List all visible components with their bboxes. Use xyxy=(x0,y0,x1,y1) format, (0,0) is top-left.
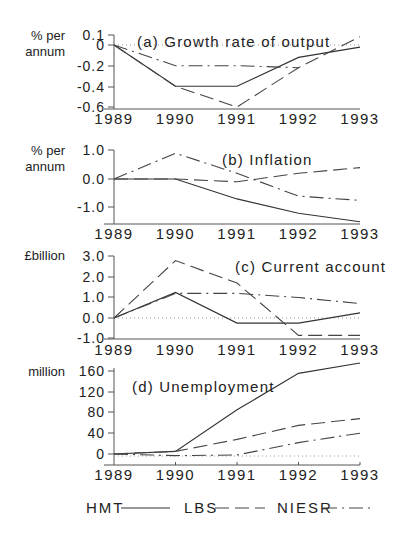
x-tick-label: 1990 xyxy=(156,225,195,242)
y-tick-label: 40 xyxy=(87,425,105,441)
y-tick-label: 160 xyxy=(79,363,105,379)
y-unit-label: % per xyxy=(31,143,66,158)
series-line-niesr xyxy=(114,293,360,318)
y-tick-label: 0.0 xyxy=(83,310,105,326)
x-tick-label: 1989 xyxy=(94,225,133,242)
y-tick-label: -1.0 xyxy=(77,199,105,215)
panel-title: (b) Inflation xyxy=(222,151,313,168)
series-line-lbs xyxy=(114,419,360,454)
x-tick-label: 1992 xyxy=(279,341,318,358)
y-unit-label: million xyxy=(28,364,65,379)
legend-label-hmt: HMT xyxy=(86,499,125,516)
y-tick-label: 80 xyxy=(87,404,105,420)
panel-title: (a) Growth rate of output xyxy=(137,33,330,50)
y-tick-label: 0.0 xyxy=(83,171,105,187)
panel-d: million1601208040019891990199119921993(d… xyxy=(28,363,380,483)
x-tick-label: 1991 xyxy=(217,341,256,358)
x-tick-label: 1992 xyxy=(279,225,318,242)
y-tick-label: 1.0 xyxy=(83,289,105,305)
x-tick-label: 1989 xyxy=(94,466,133,483)
y-tick-label: 1.0 xyxy=(83,142,105,158)
y-tick-label: 120 xyxy=(79,384,105,400)
y-unit-label: annum xyxy=(25,44,65,59)
y-tick-label: 0 xyxy=(96,446,105,462)
y-unit-label: annum xyxy=(25,159,65,174)
x-tick-label: 1991 xyxy=(217,110,256,127)
panel-title: (d) Unemployment xyxy=(132,378,275,395)
x-tick-label: 1993 xyxy=(340,110,379,127)
x-tick-label: 1993 xyxy=(340,225,379,242)
y-unit-label: £billion xyxy=(25,248,65,263)
x-tick-label: 1990 xyxy=(156,110,195,127)
x-tick-label: 1993 xyxy=(340,341,379,358)
x-tick-label: 1992 xyxy=(279,466,318,483)
series-line-hmt xyxy=(114,45,360,86)
legend-label-lbs: LBS xyxy=(184,499,218,516)
panel-b: % perannum1.00.0-1.019891990199119921993… xyxy=(25,142,379,242)
x-tick-label: 1991 xyxy=(217,466,256,483)
x-tick-label: 1990 xyxy=(156,341,195,358)
y-tick-label: -0.4 xyxy=(77,79,105,95)
panel-c: £billion3.02.01.00.0-1.01989199019911992… xyxy=(25,248,387,358)
y-tick-label: 2.0 xyxy=(83,269,105,285)
series-line-hmt xyxy=(114,179,360,222)
y-tick-label: 0 xyxy=(96,37,105,53)
y-tick-label: 3.0 xyxy=(83,248,105,264)
x-tick-label: 1992 xyxy=(279,110,318,127)
panel-title: (c) Current account xyxy=(235,258,386,275)
y-tick-label: -0.2 xyxy=(77,58,105,74)
series-line-hmt xyxy=(114,363,360,454)
panel-a: % perannum0.10-0.2-0.4-0.619891990199119… xyxy=(25,27,379,127)
x-tick-label: 1989 xyxy=(94,110,133,127)
y-unit-label: % per xyxy=(31,28,66,43)
x-tick-label: 1990 xyxy=(156,466,195,483)
figure-canvas: % perannum0.10-0.2-0.4-0.619891990199119… xyxy=(0,0,401,538)
x-tick-label: 1991 xyxy=(217,225,256,242)
x-tick-label: 1989 xyxy=(94,341,133,358)
x-tick-label: 1993 xyxy=(340,466,379,483)
legend: HMTLBSNIESR xyxy=(86,499,372,516)
series-line-lbs xyxy=(114,168,360,182)
